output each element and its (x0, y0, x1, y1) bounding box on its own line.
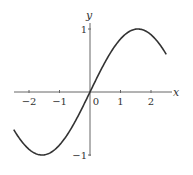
axes (14, 23, 172, 156)
x-tick-label: −1 (52, 96, 67, 107)
x-tick-label: 0 (93, 96, 99, 107)
x-axis-label: x (173, 86, 180, 99)
x-tick-label: 1 (117, 96, 123, 107)
y-tick-label: −1 (72, 150, 87, 161)
y-axis-label: y (85, 9, 93, 22)
x-tick-label: 2 (148, 96, 154, 107)
x-ticks: −2−1012 (22, 90, 155, 107)
x-tick-label: −2 (22, 96, 37, 107)
sine-plot: −2−1012 1−1 x y (0, 0, 193, 175)
y-tick-label: 1 (81, 24, 87, 35)
